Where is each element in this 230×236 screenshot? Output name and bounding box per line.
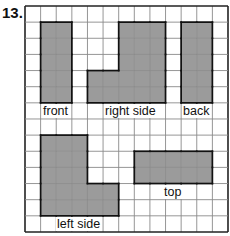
- label-left-side: left side: [56, 217, 101, 231]
- label-back: back: [182, 104, 210, 118]
- shaded-cell: [41, 184, 57, 200]
- view-right-side: [87, 22, 165, 103]
- shaded-cell: [119, 54, 135, 70]
- shaded-cell: [56, 200, 72, 216]
- shaded-cell: [87, 87, 103, 103]
- shaded-cell: [197, 87, 213, 103]
- shaded-cell: [150, 71, 166, 87]
- shaded-cell: [181, 167, 197, 183]
- shaded-cell: [134, 38, 150, 54]
- shaded-cell: [72, 167, 88, 183]
- shaded-cell: [103, 71, 119, 87]
- shaded-cell: [41, 38, 57, 54]
- shaded-cell: [103, 200, 119, 216]
- shaded-cell: [197, 22, 213, 38]
- shaded-cell: [181, 151, 197, 167]
- shaded-cell: [119, 22, 135, 38]
- shaded-cell: [41, 54, 57, 70]
- shaded-cell: [72, 135, 88, 151]
- shaded-cell: [72, 184, 88, 200]
- shaded-cell: [150, 54, 166, 70]
- shaded-cell: [197, 54, 213, 70]
- label-right-side: right side: [104, 104, 157, 118]
- shaded-cell: [56, 71, 72, 87]
- shaded-cell: [72, 200, 88, 216]
- shaded-cell: [41, 167, 57, 183]
- label-front: front: [42, 104, 69, 118]
- shaded-cell: [87, 71, 103, 87]
- shaded-cell: [72, 151, 88, 167]
- shaded-cell: [197, 71, 213, 87]
- shaded-cell: [166, 151, 182, 167]
- shaded-cell: [56, 54, 72, 70]
- shaded-cell: [134, 54, 150, 70]
- shaded-cell: [87, 200, 103, 216]
- shaded-cell: [56, 151, 72, 167]
- shaded-cell: [41, 71, 57, 87]
- shaded-cell: [181, 71, 197, 87]
- shaded-cell: [41, 87, 57, 103]
- shaded-cell: [134, 87, 150, 103]
- shaded-cell: [119, 38, 135, 54]
- shaded-cell: [56, 22, 72, 38]
- shaded-cell: [150, 151, 166, 167]
- view-left-side: [41, 135, 119, 216]
- shaded-cell: [134, 151, 150, 167]
- shaded-cell: [56, 184, 72, 200]
- shaded-cell: [56, 135, 72, 151]
- label-top: top: [163, 185, 182, 199]
- shaded-cell: [41, 135, 57, 151]
- shaded-cell: [41, 151, 57, 167]
- shaded-cell: [181, 38, 197, 54]
- shaded-cell: [181, 87, 197, 103]
- shaded-cell: [119, 87, 135, 103]
- shaded-cell: [181, 54, 197, 70]
- shaded-cell: [150, 38, 166, 54]
- shaded-cell: [181, 22, 197, 38]
- shaded-cell: [41, 200, 57, 216]
- shaded-cell: [103, 184, 119, 200]
- shaded-cell: [87, 184, 103, 200]
- shaded-cell: [119, 71, 135, 87]
- shaded-cell: [103, 87, 119, 103]
- shaded-cell: [56, 167, 72, 183]
- shaded-cell: [166, 167, 182, 183]
- shaded-cell: [134, 167, 150, 183]
- shaded-cell: [41, 22, 57, 38]
- shaded-cell: [150, 167, 166, 183]
- shaded-cell: [56, 87, 72, 103]
- shaded-cell: [56, 38, 72, 54]
- shaded-cell: [197, 38, 213, 54]
- shaded-cell: [150, 22, 166, 38]
- shaded-cell: [134, 71, 150, 87]
- shaded-cell: [197, 167, 213, 183]
- shaded-cell: [134, 22, 150, 38]
- grid-svg: [0, 0, 230, 236]
- shaded-cell: [197, 151, 213, 167]
- shaded-cell: [150, 87, 166, 103]
